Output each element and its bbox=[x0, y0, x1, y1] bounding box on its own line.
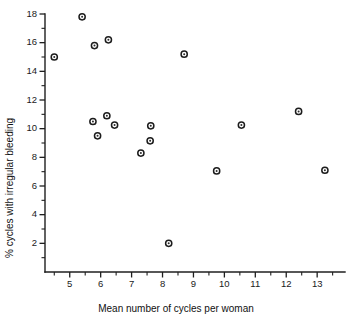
x-tick-label: 13 bbox=[312, 278, 323, 289]
data-point-core bbox=[81, 16, 83, 18]
x-axis-title: Mean number of cycles per woman bbox=[98, 303, 254, 314]
data-point bbox=[104, 113, 110, 119]
data-point bbox=[90, 118, 96, 124]
y-tick-label: 16 bbox=[26, 36, 37, 47]
data-point-core bbox=[140, 152, 142, 154]
x-axis-tick-labels: 5678910111213 bbox=[67, 278, 322, 289]
data-point-core bbox=[150, 125, 152, 127]
data-point bbox=[166, 240, 172, 246]
data-point bbox=[91, 42, 97, 48]
y-tick-label: 14 bbox=[26, 65, 37, 76]
y-axis-major-ticks bbox=[40, 14, 46, 243]
data-point-core bbox=[216, 170, 218, 172]
y-tick-label: 8 bbox=[32, 151, 37, 162]
data-point-core bbox=[93, 45, 95, 47]
data-point bbox=[181, 51, 187, 57]
x-tick-label: 10 bbox=[219, 278, 230, 289]
data-point-core bbox=[53, 56, 55, 58]
data-point bbox=[147, 138, 153, 144]
data-point-core bbox=[92, 121, 94, 123]
data-point bbox=[148, 123, 154, 129]
data-point bbox=[51, 54, 57, 60]
x-tick-label: 12 bbox=[281, 278, 292, 289]
x-tick-label: 8 bbox=[160, 278, 165, 289]
data-point bbox=[111, 122, 117, 128]
y-tick-label: 10 bbox=[26, 122, 37, 133]
data-point-core bbox=[168, 242, 170, 244]
y-tick-label: 18 bbox=[26, 8, 37, 19]
x-tick-label: 11 bbox=[250, 278, 260, 289]
y-axis-title: % cycles with irregular bleeding bbox=[4, 118, 15, 258]
y-tick-label: 12 bbox=[26, 94, 37, 105]
data-point bbox=[238, 122, 244, 128]
data-point-group bbox=[51, 14, 328, 247]
data-point-core bbox=[106, 115, 108, 117]
x-tick-label: 6 bbox=[98, 278, 103, 289]
data-point bbox=[296, 108, 302, 114]
x-tick-label: 7 bbox=[129, 278, 134, 289]
x-tick-label: 5 bbox=[67, 278, 72, 289]
x-tick-label: 9 bbox=[191, 278, 196, 289]
data-point bbox=[138, 150, 144, 156]
data-point-core bbox=[107, 39, 109, 41]
data-point-core bbox=[240, 124, 242, 126]
y-axis-tick-labels: 24681012141618 bbox=[26, 8, 37, 248]
scatter-chart: 24681012141618 5678910111213 Mean number… bbox=[0, 0, 352, 323]
data-point-core bbox=[298, 110, 300, 112]
chart-canvas: 24681012141618 5678910111213 Mean number… bbox=[0, 0, 352, 323]
data-point bbox=[322, 167, 328, 173]
y-tick-label: 2 bbox=[32, 237, 37, 248]
y-tick-label: 6 bbox=[32, 180, 37, 191]
data-point-core bbox=[149, 140, 151, 142]
data-point bbox=[105, 37, 111, 43]
data-point-core bbox=[183, 53, 185, 55]
y-tick-label: 4 bbox=[32, 208, 37, 219]
data-point bbox=[214, 168, 220, 174]
data-point-core bbox=[324, 169, 326, 171]
data-point bbox=[94, 133, 100, 139]
data-point-core bbox=[97, 135, 99, 137]
data-point bbox=[79, 14, 85, 20]
data-point-core bbox=[114, 124, 116, 126]
x-axis-major-ticks bbox=[70, 272, 317, 278]
